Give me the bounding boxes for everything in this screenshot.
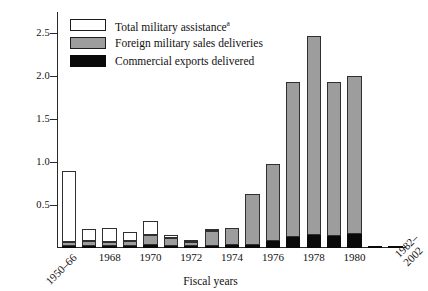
- bar-series-container: [59, 12, 406, 248]
- bar-1973: [205, 229, 219, 248]
- bar-1972: [184, 240, 198, 248]
- bar-1980: [347, 76, 361, 248]
- bar-1970: [143, 221, 157, 248]
- bar-segment: [307, 235, 321, 248]
- bar-1974: [225, 228, 239, 248]
- bar-segment: [205, 231, 219, 246]
- bar-1975: [245, 194, 259, 248]
- bar-1981: [368, 246, 382, 248]
- y-axis-label: 2.0: [16, 71, 50, 81]
- x-axis-label: 1980: [329, 252, 381, 264]
- bar-segment: [245, 245, 259, 248]
- bar-segment: [225, 228, 239, 245]
- bar-segment: [143, 245, 157, 248]
- bar-1968: [102, 228, 116, 248]
- bar-segment: [286, 237, 300, 248]
- y-axis-tick: [50, 205, 58, 206]
- bar-1978: [307, 36, 321, 248]
- bar-1977: [286, 82, 300, 248]
- y-axis-tick: [50, 76, 58, 77]
- y-axis-label: 1.0: [16, 157, 50, 167]
- y-axis-label: 1.5: [16, 114, 50, 124]
- bar-segment: [143, 221, 157, 235]
- bar-segment: [225, 245, 239, 248]
- bar-1971: [164, 235, 178, 248]
- bar-1976: [266, 164, 280, 248]
- bar-segment: [164, 246, 178, 248]
- y-axis-tick: [50, 162, 58, 163]
- bar-segment: [123, 246, 137, 248]
- bar-segment: [347, 76, 361, 234]
- bar-1969: [123, 232, 137, 248]
- bar-segment: [62, 246, 76, 248]
- bar-segment: [205, 246, 219, 248]
- bar-segment: [82, 246, 96, 248]
- bar-segment: [184, 246, 198, 248]
- bar-segment: [286, 82, 300, 236]
- bar-segment: [123, 232, 137, 241]
- bar-segment: [102, 228, 116, 242]
- y-axis-label: 2.5: [16, 28, 50, 38]
- bar-segment: [266, 241, 280, 248]
- bar-segment: [82, 229, 96, 241]
- bar-segment: [327, 82, 341, 236]
- bar-segment: [368, 246, 382, 248]
- y-axis-tick: [50, 33, 58, 34]
- bar-segment: [102, 246, 116, 248]
- x-axis-title: Fiscal years: [0, 275, 421, 287]
- bar-segment: [164, 238, 178, 246]
- y-axis-label: 0.5: [16, 200, 50, 210]
- bar-1950-66: [62, 171, 76, 249]
- bar-segment: [245, 194, 259, 245]
- y-axis-tick: [50, 119, 58, 120]
- bar-segment: [307, 36, 321, 235]
- bar-segment: [266, 164, 280, 241]
- bar-segment: [143, 235, 157, 245]
- bar-1967: [82, 229, 96, 248]
- bar-1979: [327, 82, 341, 248]
- bar-segment: [327, 236, 341, 248]
- bar-segment: [62, 171, 76, 242]
- bar-segment: [347, 234, 361, 248]
